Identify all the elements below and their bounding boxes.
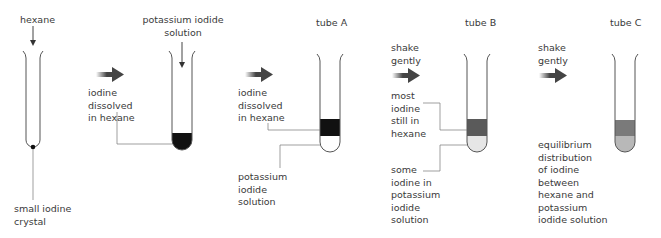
label-potassium-iodide-solution-a: potassium iodide solution bbox=[238, 171, 287, 209]
down-arrow-icon bbox=[179, 62, 185, 68]
label-line: potassium bbox=[538, 202, 608, 215]
label-line: most bbox=[391, 90, 426, 103]
label-iodine-dissolved-2: iodine dissolved in hexane bbox=[238, 87, 285, 125]
label-line: iodine bbox=[88, 87, 135, 100]
process-arrow-1 bbox=[96, 67, 124, 82]
label-line: potassium iodide bbox=[140, 14, 226, 27]
test-tube-c bbox=[612, 54, 638, 152]
label-line: hexane bbox=[391, 128, 426, 141]
label-line: potassium bbox=[391, 189, 440, 202]
test-tube-start bbox=[23, 26, 43, 200]
label-tube-b: tube B bbox=[465, 17, 496, 30]
label-iodine-dissolved-1: iodine dissolved in hexane bbox=[88, 87, 135, 125]
label-line: iodide solution bbox=[538, 214, 608, 227]
label-equilibrium-distribution: equilibrium distribution of iodine betwe… bbox=[538, 139, 608, 227]
process-arrow-3 bbox=[392, 68, 420, 83]
label-tube-a: tube A bbox=[316, 17, 347, 30]
label-line: equilibrium bbox=[538, 139, 608, 152]
label-line: iodine bbox=[238, 87, 285, 100]
label-potassium-iodide-solution: potassium iodide solution bbox=[140, 14, 226, 39]
label-hexane: hexane bbox=[20, 14, 55, 27]
label-line: some bbox=[391, 164, 440, 177]
label-shake-gently-c: shake gently bbox=[538, 42, 568, 67]
label-line: dissolved bbox=[88, 100, 135, 113]
label-line: solution bbox=[140, 27, 226, 40]
label-line: gently bbox=[391, 55, 421, 68]
label-line: iodine bbox=[391, 103, 426, 116]
label-line: distribution bbox=[538, 152, 608, 165]
label-small-iodine-crystal: small iodine crystal bbox=[14, 203, 71, 228]
label-most-iodine-hexane: most iodine still in hexane bbox=[391, 90, 426, 140]
label-line: iodide bbox=[391, 202, 440, 215]
label-line: small iodine bbox=[14, 203, 71, 216]
label-line: shake bbox=[391, 42, 421, 55]
label-line: hexane and bbox=[538, 189, 608, 202]
label-line: still in bbox=[391, 115, 426, 128]
label-some-iodine-ki: some iodine in potassium iodide solution bbox=[391, 164, 440, 227]
label-line: potassium bbox=[238, 171, 287, 184]
iodine-crystal bbox=[31, 145, 36, 150]
process-arrow-2 bbox=[245, 67, 273, 82]
label-line: iodine in bbox=[391, 177, 440, 190]
label-line: of iodine bbox=[538, 164, 608, 177]
label-line: crystal bbox=[14, 216, 71, 229]
down-arrow-icon bbox=[30, 40, 36, 46]
label-line: shake bbox=[538, 42, 568, 55]
test-tube-b bbox=[423, 54, 490, 171]
label-line: in hexane bbox=[238, 112, 285, 125]
label-line: solution bbox=[391, 214, 440, 227]
label-line: gently bbox=[538, 55, 568, 68]
label-line: iodide bbox=[238, 184, 287, 197]
label-line: dissolved bbox=[238, 100, 285, 113]
label-line: in hexane bbox=[88, 112, 135, 125]
label-line: between bbox=[538, 177, 608, 190]
process-arrow-4 bbox=[539, 68, 567, 83]
label-tube-c: tube C bbox=[610, 17, 641, 30]
label-line: solution bbox=[238, 196, 287, 209]
label-shake-gently-b: shake gently bbox=[391, 42, 421, 67]
